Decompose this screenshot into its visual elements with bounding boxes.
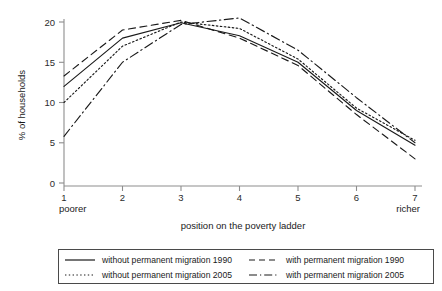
x-tick-label: 7 (412, 192, 417, 203)
legend-label: without permanent migration 2005 (102, 270, 232, 280)
series-line-without-permanent-migration-1990 (64, 23, 415, 145)
x-axis-poorer-label: poorer (59, 203, 86, 214)
y-tick-label: 5 (50, 137, 55, 148)
legend-label: without permanent migration 1990 (102, 255, 232, 265)
legend-label: with permanent migration 2005 (286, 270, 404, 280)
series-line-with-permanent-migration-2005 (64, 18, 415, 143)
chart-figure: 20 15 10 5 0 1 2 3 4 5 6 7 poorer (0, 0, 442, 291)
legend-item-with-permanent-migration-1990: with permanent migration 1990 (249, 252, 404, 267)
legend-sample-solid-icon (65, 255, 95, 265)
legend-sample-dash-dot-icon (249, 270, 279, 280)
x-tick-label: 2 (120, 192, 125, 203)
x-axis-title: position on the poverty ladder (181, 220, 306, 231)
y-tick-label: 0 (50, 178, 55, 189)
x-tick-label: 4 (237, 192, 242, 203)
line-chart-plot: 20 15 10 5 0 1 2 3 4 5 6 7 poorer (0, 0, 442, 291)
x-axis-richer-label: richer (396, 203, 420, 214)
series-line-without-permanent-migration-2005 (64, 22, 415, 140)
x-axis-ticks (64, 186, 415, 191)
legend-item-without-permanent-migration-2005: without permanent migration 2005 (65, 267, 232, 282)
series-line-with-permanent-migration-1990 (64, 20, 415, 158)
y-tick-label: 20 (44, 17, 55, 28)
chart-legend: without permanent migration 1990 with pe… (58, 249, 434, 284)
y-tick-labels: 20 15 10 5 0 (44, 17, 55, 189)
x-tick-label: 5 (295, 192, 300, 203)
x-tick-label: 3 (178, 192, 183, 203)
legend-item-with-permanent-migration-2005: with permanent migration 2005 (249, 267, 404, 282)
x-tick-label: 6 (354, 192, 359, 203)
y-tick-label: 15 (44, 57, 55, 68)
legend-sample-dashed-icon (249, 255, 279, 265)
x-tick-labels: 1 2 3 4 5 6 7 (61, 192, 417, 203)
x-tick-label: 1 (61, 192, 66, 203)
legend-item-without-permanent-migration-1990: without permanent migration 1990 (65, 252, 232, 267)
y-tick-label: 10 (44, 97, 55, 108)
legend-sample-dotted-icon (65, 270, 95, 280)
y-axis-title: % of households (16, 70, 27, 140)
y-axis-ticks (59, 22, 64, 183)
series-group (64, 18, 415, 159)
legend-label: with permanent migration 1990 (286, 255, 404, 265)
